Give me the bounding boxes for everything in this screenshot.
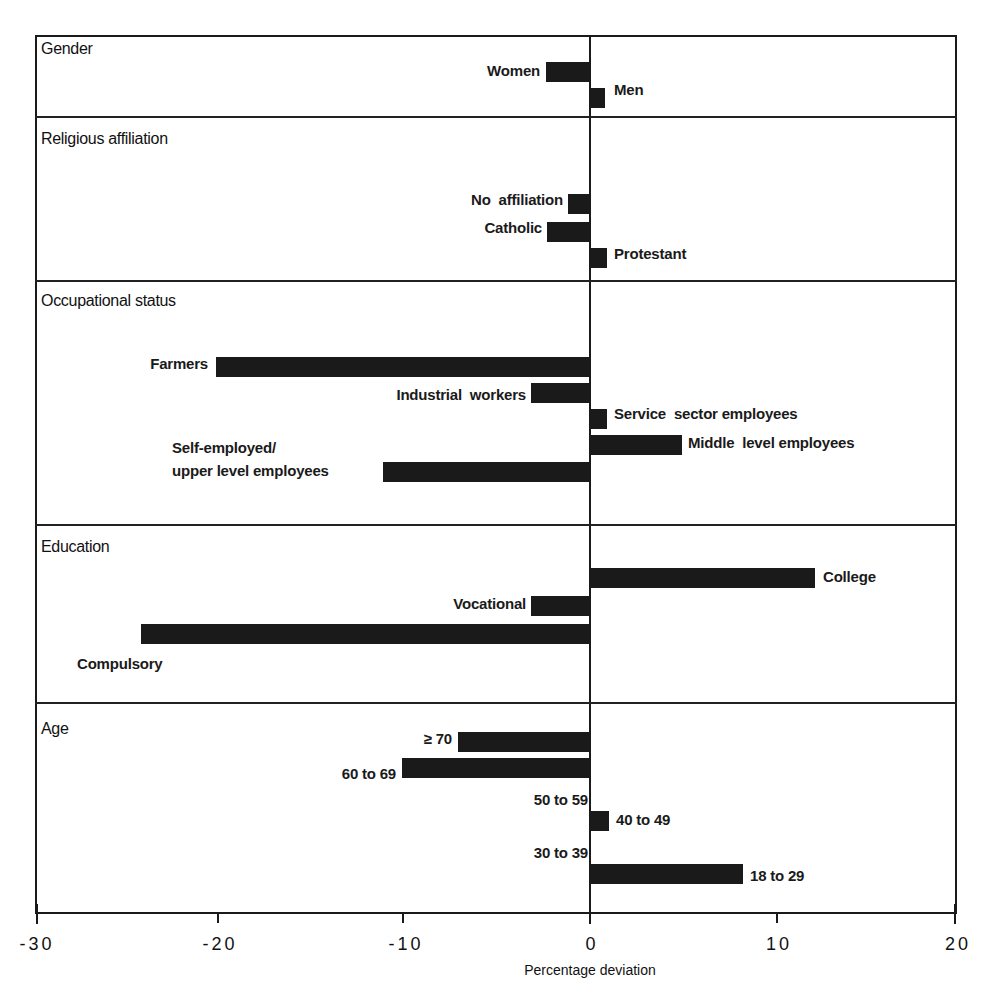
section-title-religion: Religious affiliation	[41, 130, 168, 148]
separator-occupation-education	[35, 524, 957, 526]
label-age-70-plus: ≥ 70	[424, 730, 452, 747]
label-self-employed-1: Self-employed/	[172, 439, 276, 456]
x-tick-label: 10	[766, 934, 792, 955]
bar-compulsory	[141, 624, 590, 644]
bar-age-18-29	[590, 864, 743, 884]
label-age-50-59: 50 to 59	[534, 791, 588, 808]
label-college: College	[823, 568, 876, 585]
bar-men	[590, 88, 605, 108]
x-axis-label: Percentage deviation	[524, 962, 656, 978]
x-tick	[954, 904, 956, 924]
label-industrial-workers: Industrial workers	[396, 386, 526, 403]
label-middle-level: Middle level employees	[688, 434, 854, 451]
label-men: Men	[614, 81, 643, 98]
bar-college	[590, 568, 815, 588]
x-tick-label: 0	[585, 934, 598, 955]
x-tick	[402, 913, 404, 923]
label-protestant: Protestant	[614, 245, 686, 262]
separator-education-age	[35, 702, 957, 704]
label-age-18-29: 18 to 29	[750, 867, 804, 884]
label-self-employed-2: upper level employees	[172, 462, 329, 479]
bar-catholic	[547, 222, 590, 242]
label-age-60-69: 60 to 69	[342, 765, 396, 782]
label-age-30-39: 30 to 39	[534, 844, 588, 861]
section-title-age: Age	[41, 720, 69, 738]
section-title-occupation: Occupational status	[41, 292, 176, 310]
bar-no-affiliation	[568, 194, 590, 214]
separator-gender-religion	[35, 116, 957, 118]
label-vocational: Vocational	[453, 595, 526, 612]
label-no-affiliation: No affiliation	[471, 191, 563, 208]
bar-age-40-49	[590, 811, 609, 831]
bar-protestant	[590, 248, 607, 268]
x-tick	[589, 904, 591, 924]
separator-religion-occupation	[35, 280, 957, 282]
bar-age-60-69	[402, 758, 590, 778]
x-tick-label: -20	[202, 934, 237, 955]
bar-vocational	[531, 596, 590, 616]
bar-age-70-plus	[458, 732, 590, 752]
bar-middle-level	[590, 435, 682, 455]
bar-women	[546, 62, 590, 82]
label-age-40-49: 40 to 49	[616, 811, 670, 828]
section-title-education: Education	[41, 538, 109, 556]
label-compulsory: Compulsory	[77, 655, 163, 672]
label-catholic: Catholic	[484, 219, 542, 236]
x-axis-line	[37, 912, 957, 914]
x-tick	[217, 913, 219, 923]
section-title-gender: Gender	[41, 40, 93, 58]
x-tick-label: -30	[19, 934, 54, 955]
label-service-sector: Service sector employees	[614, 405, 797, 422]
x-tick	[36, 904, 38, 924]
bar-industrial-workers	[531, 383, 590, 403]
label-farmers: Farmers	[150, 355, 208, 372]
x-tick	[776, 913, 778, 923]
label-women: Women	[487, 62, 540, 79]
bar-farmers	[216, 357, 590, 377]
x-tick-label: -10	[388, 934, 423, 955]
bar-service-sector	[590, 409, 607, 429]
bar-self-employed	[383, 462, 590, 482]
x-tick-label: 20	[945, 934, 971, 955]
